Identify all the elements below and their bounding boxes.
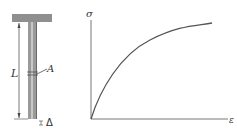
bar-edge: [36, 22, 37, 119]
x-axis-label: ε: [229, 115, 234, 125]
stress-strain-plot: σ ε: [86, 8, 234, 125]
bar-highlight: [31, 22, 33, 119]
dimension-arrow-top: [18, 23, 21, 28]
figure-canvas: L A Δ σ ε: [0, 0, 237, 138]
bar-diagram: L A Δ: [10, 14, 54, 128]
y-axis-label: σ: [86, 8, 94, 19]
elongation-label: Δ: [46, 117, 53, 128]
area-leader: [37, 69, 47, 74]
area-label: A: [46, 63, 54, 74]
dimension-arrow-bottom: [18, 113, 21, 118]
length-label: L: [10, 67, 18, 80]
stress-strain-curve: [91, 23, 212, 119]
fixed-support: [12, 14, 52, 22]
